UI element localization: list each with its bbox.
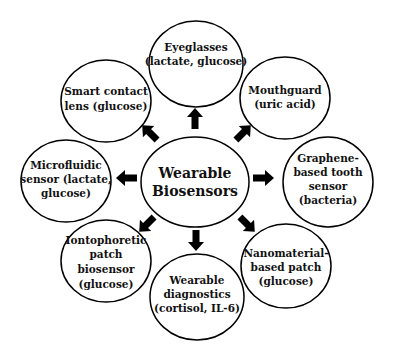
node-label: based patch — [251, 261, 322, 273]
node-label: Eyeglasses — [164, 41, 227, 53]
arrow-left-icon — [116, 170, 137, 186]
node-label: (glucose) — [259, 275, 314, 287]
node-label: Wearable — [169, 274, 225, 286]
node-label: (bacteria) — [299, 194, 357, 206]
node-label: (uric acid) — [254, 98, 316, 110]
node-label: Microfluidic — [30, 159, 102, 171]
node-label: sensor (lactate, — [20, 173, 111, 185]
node-nanomaterial-patch: Nanomaterial- based patch (glucose) — [241, 224, 331, 308]
node-label: Smart contact — [64, 85, 148, 97]
node-graphene-tooth-sensor: Graphene- based tooth sensor (bacteria) — [283, 137, 373, 227]
node-label: based tooth — [293, 166, 362, 178]
node-label: biosensor — [77, 263, 134, 275]
node-smart-contact-lens: Smart contact lens (glucose) — [61, 60, 151, 142]
wearable-biosensors-diagram: Wearable Biosensors Eyeglasses (lactate,… — [0, 0, 393, 355]
node-mouthguard: Mouthguard (uric acid) — [240, 57, 330, 139]
center-label-line-2: Biosensors — [152, 183, 238, 199]
node-label: patch — [89, 248, 122, 260]
node-label: Nanomaterial- — [243, 247, 328, 259]
node-microfluidic-sensor: Microfluidic sensor (lactate, glucose) — [20, 140, 111, 222]
node-label: (lactate, glucose) — [145, 55, 248, 67]
center-node: Wearable Biosensors — [141, 137, 249, 227]
node-label: Mouthguard — [248, 84, 322, 96]
node-eyeglasses: Eyeglasses (lactate, glucose) — [145, 21, 248, 107]
node-label: (glucose) — [79, 278, 134, 290]
node-label: Graphene- — [297, 152, 359, 164]
arrow-right-icon — [253, 170, 274, 186]
node-label: Iontophoretic — [66, 234, 147, 246]
node-label: glucose) — [41, 187, 91, 199]
node-label: lens (glucose) — [65, 100, 148, 112]
node-wearable-diagnostics: Wearable diagnostics (cortisol, IL-6) — [150, 254, 244, 340]
arrow-up-icon — [187, 108, 203, 129]
node-iontophoretic-patch: Iontophoretic patch biosensor (glucose) — [61, 220, 151, 302]
node-label: diagnostics — [163, 288, 230, 300]
node-label: (cortisol, IL-6) — [154, 302, 240, 314]
arrow-down-icon — [188, 230, 204, 251]
node-label: sensor — [309, 180, 348, 192]
center-label-line-1: Wearable — [157, 165, 231, 181]
